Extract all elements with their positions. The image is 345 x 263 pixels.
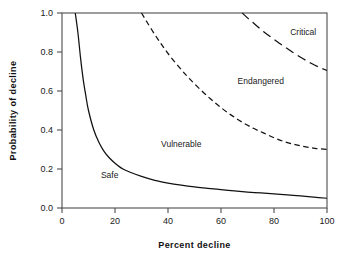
y-axis-title: Probability of decline (8, 61, 18, 161)
y-tick-label: 0.0 (40, 203, 53, 213)
x-tick-label: 0 (59, 216, 64, 226)
region-label-endangered: Endangered (238, 76, 285, 86)
y-tick-label: 0.2 (40, 164, 53, 174)
y-tick-label: 0.4 (40, 125, 53, 135)
region-label-vulnerable: Vulnerable (161, 139, 202, 149)
chart-canvas: 020406080100 0.00.20.40.60.81.0 SafeVuln… (0, 0, 345, 263)
chart-figure: 020406080100 0.00.20.40.60.81.0 SafeVuln… (0, 0, 345, 263)
region-label-safe: Safe (101, 170, 119, 180)
y-tick-label: 1.0 (40, 8, 53, 18)
x-axis-title: Percent decline (158, 240, 231, 250)
x-tick-label: 100 (319, 216, 334, 226)
x-tick-label: 20 (110, 216, 120, 226)
region-label-critical: Critical (290, 27, 316, 37)
x-tick-label: 60 (216, 216, 226, 226)
y-tick-label: 0.8 (40, 47, 53, 57)
x-tick-label: 40 (163, 216, 173, 226)
y-tick-label: 0.6 (40, 86, 53, 96)
x-tick-label: 80 (269, 216, 279, 226)
